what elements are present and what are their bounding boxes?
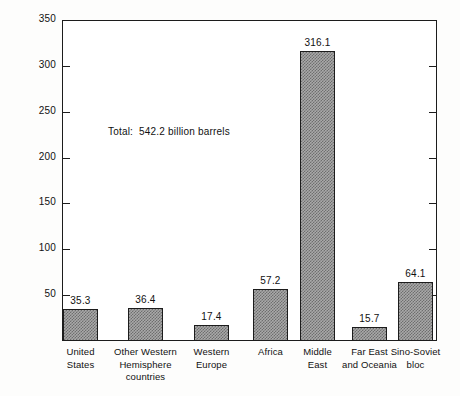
bar[interactable] xyxy=(253,289,288,341)
bar-value-label: 15.7 xyxy=(336,313,403,324)
bars-layer: 35.3UnitedStates36.4Other WesternHemisph… xyxy=(0,0,460,396)
bar-value-label: 17.4 xyxy=(178,311,245,322)
bar-value-label: 35.3 xyxy=(47,295,114,306)
bar-chart: Billions of barrels 50100150200250300350… xyxy=(0,0,460,396)
bar[interactable] xyxy=(398,282,433,341)
bar-group[interactable]: 15.7Far Eastand Oceania xyxy=(352,327,387,341)
bar-value-label: 64.1 xyxy=(382,268,449,279)
bar[interactable] xyxy=(194,325,229,341)
x-axis-category-label: Sino-Sovietbloc xyxy=(376,341,455,371)
x-axis-category-line: countries xyxy=(106,371,185,384)
bar[interactable] xyxy=(128,308,163,341)
bar-group[interactable]: 64.1Sino-Sovietbloc xyxy=(398,282,433,341)
bar-value-label: 316.1 xyxy=(284,37,351,48)
bar-value-label: 36.4 xyxy=(112,294,179,305)
bar-group[interactable]: 36.4Other WesternHemispherecountries xyxy=(128,308,163,341)
bar[interactable] xyxy=(300,51,335,341)
total-annotation: Total: 542.2 billion barrels xyxy=(108,126,230,137)
bar[interactable] xyxy=(63,309,98,341)
x-axis-category-line: Europe xyxy=(172,359,251,372)
bar[interactable] xyxy=(352,327,387,341)
bar-group[interactable]: 35.3UnitedStates xyxy=(63,309,98,341)
bar-group[interactable]: 57.2Africa xyxy=(253,289,288,341)
bar-group[interactable]: 17.4WesternEurope xyxy=(194,325,229,341)
x-axis-category-line: bloc xyxy=(376,359,455,372)
bar-group[interactable]: 316.1MiddleEast xyxy=(300,51,335,341)
x-axis-category-line: Sino-Soviet xyxy=(376,346,455,359)
bar-value-label: 57.2 xyxy=(237,275,304,286)
